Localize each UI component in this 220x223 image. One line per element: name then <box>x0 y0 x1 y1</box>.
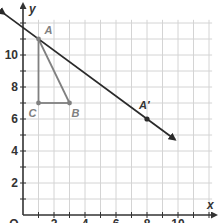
x-tick-label: 8 <box>144 217 151 223</box>
x-axis-label: x <box>206 198 215 212</box>
point-b <box>67 101 72 106</box>
x-tick-label: 10 <box>171 217 185 223</box>
y-tick-label: 4 <box>11 144 18 158</box>
x-tick-label: 4 <box>82 217 89 223</box>
y-tick-label: 2 <box>11 176 18 190</box>
origin-label: O <box>9 217 18 223</box>
line-through-a-and-a-prime <box>4 14 175 140</box>
line-with-arrows <box>4 14 175 140</box>
point-label-c: C <box>29 107 38 119</box>
point-a-prime <box>144 116 149 121</box>
y-axis-label: y <box>28 2 37 16</box>
axis-ticks <box>20 23 209 218</box>
point-c <box>36 101 41 106</box>
y-tick-label: 6 <box>11 112 18 126</box>
y-tick-label: 10 <box>5 48 19 62</box>
point-label-a: A <box>44 24 53 36</box>
y-tick-label: 8 <box>11 80 18 94</box>
x-tick-label: 6 <box>113 217 120 223</box>
x-tick-label: 2 <box>51 217 58 223</box>
point-a <box>36 37 41 42</box>
point-label-b: B <box>72 107 80 119</box>
point-label-a-prime: A′ <box>138 99 151 111</box>
coordinate-plane: 246810O246810 ABCA′ y x <box>0 0 220 223</box>
